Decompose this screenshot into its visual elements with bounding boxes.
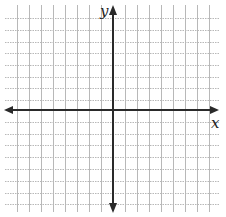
- y-axis-up-arrow-icon: [109, 5, 117, 15]
- coordinate-plane: y x: [0, 0, 226, 217]
- y-axis-down-arrow-icon: [109, 203, 117, 213]
- x-axis-left-arrow-icon: [4, 106, 13, 114]
- y-axis-label: y: [99, 2, 109, 20]
- x-axis-right-arrow-icon: [210, 106, 219, 114]
- x-axis-label: x: [211, 114, 220, 132]
